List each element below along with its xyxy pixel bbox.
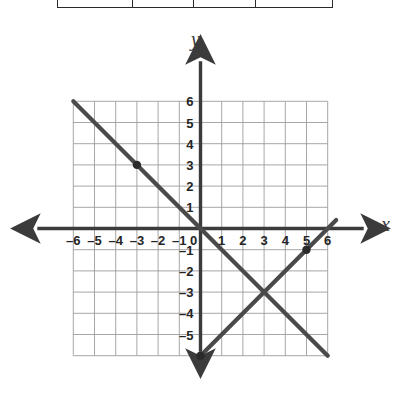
x-tick-label: –6 <box>66 233 80 248</box>
x-tick-label: 2 <box>239 233 246 248</box>
axes <box>37 61 363 351</box>
x-tick-label: 4 <box>282 233 290 248</box>
x-tick-label: 1 <box>218 233 225 248</box>
data-point <box>133 161 141 169</box>
y-tick-label: 3 <box>186 158 193 173</box>
x-tick-label: –3 <box>130 233 144 248</box>
y-tick-label: –2 <box>179 264 193 279</box>
x-tick-label: 5 <box>303 233 310 248</box>
y-tick-label: 2 <box>186 179 193 194</box>
y-tick-label: –1 <box>179 243 193 258</box>
y-tick-label: 1 <box>186 200 193 215</box>
y-tick-label: –5 <box>179 328 193 343</box>
coordinate-plane: –6–5–4–3–2–10123456654321–1–2–3–4–5 <box>0 0 414 414</box>
figure-root: y x –6–5–4–3–2–10123456654321–1–2–3–4–5 <box>0 0 414 414</box>
x-tick-label: 6 <box>324 233 331 248</box>
y-tick-label: 4 <box>186 137 194 152</box>
x-tick-label: 3 <box>260 233 267 248</box>
y-tick-label: 6 <box>186 94 193 109</box>
y-tick-label: 5 <box>186 116 193 131</box>
x-tick-label: –4 <box>108 233 123 248</box>
x-tick-label: –2 <box>151 233 165 248</box>
x-tick-label: –5 <box>87 233 101 248</box>
data-point <box>196 352 204 360</box>
y-tick-label: –3 <box>179 285 193 300</box>
y-tick-label: –4 <box>179 306 194 321</box>
